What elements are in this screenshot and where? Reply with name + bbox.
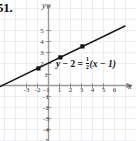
x-tick-label: 5 xyxy=(99,86,109,94)
y-tick-label: -2 xyxy=(41,104,51,112)
x-tick-label: 4 xyxy=(88,86,98,94)
fraction-denominator: 2 xyxy=(86,63,89,71)
equation-fraction: 1 2 xyxy=(86,56,89,71)
x-tick-label: 1 xyxy=(55,86,65,94)
x-tick-label: 3 xyxy=(77,86,87,94)
y-axis-label: y xyxy=(42,1,46,10)
y-tick-label: -1 xyxy=(41,93,51,101)
y-tick-label: -5 xyxy=(41,137,51,141)
equation-minus-constant: − 2 = xyxy=(63,59,83,69)
y-tick-label: -3 xyxy=(41,115,51,123)
problem-number: 51. xyxy=(0,0,13,16)
y-tick-label: 2 xyxy=(37,60,47,68)
fraction-numerator: 1 xyxy=(86,56,89,63)
x-tick-label: 2 xyxy=(66,86,76,94)
y-tick-label: 4 xyxy=(37,38,47,46)
y-tick-label: 5 xyxy=(37,27,47,35)
equation-rhs: (x − 1) xyxy=(90,59,116,69)
y-tick-label: -4 xyxy=(41,126,51,134)
graph-figure: 51. y x -3 -2 -1 1 2 3 4 5 6 5 4 3 2 1 -… xyxy=(0,0,136,141)
y-tick-label: 1 xyxy=(41,71,51,79)
x-axis-label: x xyxy=(128,82,132,91)
x-tick-label: 6 xyxy=(110,86,120,94)
y-tick-label: 3 xyxy=(37,49,47,57)
equation-annotation: y − 2 = 1 2 (x − 1) xyxy=(56,56,116,71)
x-tick-label: -3 xyxy=(22,86,32,94)
equation-lhs-variable: y xyxy=(56,59,60,69)
